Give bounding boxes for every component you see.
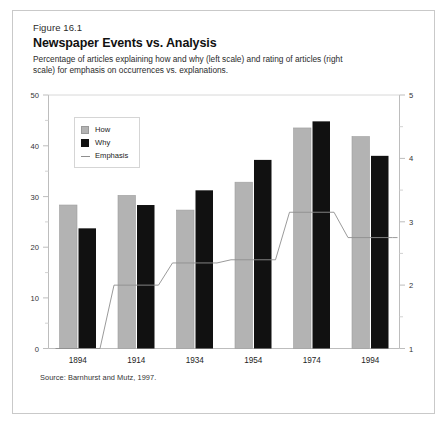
legend-label-emphasis: Emphasis — [95, 151, 128, 160]
legend-item-how: How — [81, 123, 133, 136]
legend-item-why: Why — [81, 136, 133, 149]
legend-label-how: How — [95, 125, 110, 134]
legend-label-why: Why — [95, 138, 110, 147]
chart-legend: How Why Emphasis — [74, 117, 140, 168]
legend-item-emphasis: Emphasis — [81, 149, 133, 162]
legend-swatch-emphasis-icon — [81, 152, 89, 160]
figure-subtitle: Percentage of articles explaining how an… — [33, 54, 363, 76]
legend-swatch-why-icon — [81, 139, 89, 147]
figure-title: Newspaper Events vs. Analysis — [33, 36, 378, 50]
source-note: Source: Barnhurst and Mutz, 1997. — [40, 373, 156, 382]
figure-number: Figure 16.1 — [33, 22, 378, 33]
figure-header: Figure 16.1 Newspaper Events vs. Analysi… — [33, 22, 378, 76]
legend-swatch-how-icon — [81, 126, 89, 134]
